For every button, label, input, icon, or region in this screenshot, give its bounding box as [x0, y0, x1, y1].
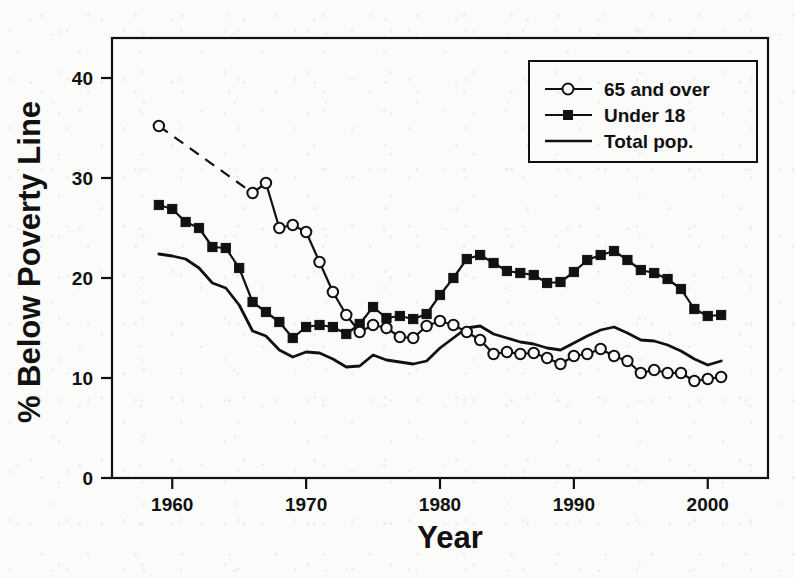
data-point-65-and-over: [488, 349, 498, 359]
data-point-65-and-over: [261, 178, 271, 188]
legend-label-under-18: Under 18: [604, 105, 685, 126]
data-point-65-and-over: [448, 320, 458, 330]
x-tick-label: 1960: [151, 494, 193, 515]
data-point-65-and-over: [582, 349, 592, 359]
data-point-65-and-over: [341, 310, 351, 320]
data-point-under-18: [650, 268, 659, 277]
data-point-under-18: [181, 217, 190, 226]
data-point-65-and-over: [328, 287, 338, 297]
data-point-under-18: [476, 250, 485, 259]
data-point-under-18: [556, 277, 565, 286]
open-circle-icon: [563, 84, 574, 95]
data-point-65-and-over: [435, 316, 445, 326]
data-point-65-and-over: [274, 223, 284, 233]
data-point-under-18: [368, 302, 377, 311]
data-point-under-18: [288, 333, 297, 342]
data-point-65-and-over: [716, 372, 726, 382]
data-point-65-and-over: [703, 374, 713, 384]
data-point-65-and-over: [301, 227, 311, 237]
y-tick-label: 20: [72, 268, 93, 289]
y-tick-label: 30: [72, 168, 93, 189]
data-point-under-18: [516, 268, 525, 277]
y-axis-title: % Below Poverty Line: [12, 101, 47, 423]
y-tick-label: 40: [72, 68, 93, 89]
data-point-under-18: [221, 243, 230, 252]
data-point-65-and-over: [354, 327, 364, 337]
data-point-under-18: [208, 242, 217, 251]
legend-label-65-and-over: 65 and over: [604, 79, 710, 100]
data-point-65-and-over: [381, 323, 391, 333]
data-point-under-18: [409, 314, 418, 323]
data-point-under-18: [596, 250, 605, 259]
x-tick-label: 1980: [419, 494, 461, 515]
data-point-under-18: [422, 309, 431, 318]
data-point-under-18: [676, 284, 685, 293]
data-point-65-and-over: [408, 333, 418, 343]
x-tick-label: 1990: [553, 494, 595, 515]
data-point-under-18: [395, 311, 404, 320]
data-point-65-and-over: [662, 368, 672, 378]
data-point-under-18: [543, 278, 552, 287]
data-point-65-and-over: [421, 321, 431, 331]
data-point-65-and-over: [555, 359, 565, 369]
data-point-under-18: [328, 322, 337, 331]
data-point-65-and-over: [462, 327, 472, 337]
data-point-under-18: [663, 274, 672, 283]
data-point-under-18: [502, 266, 511, 275]
data-point-under-18: [636, 265, 645, 274]
data-point-under-18: [569, 267, 578, 276]
y-tick-label: 10: [72, 368, 93, 389]
data-point-under-18: [275, 317, 284, 326]
data-point-under-18: [529, 270, 538, 279]
chart-legend: 65 and over Under 18 Total pop.: [529, 61, 757, 162]
data-point-under-18: [261, 307, 270, 316]
data-point-under-18: [489, 258, 498, 267]
data-point-65-and-over: [515, 349, 525, 359]
data-point-under-18: [609, 246, 618, 255]
filled-square-icon: [563, 110, 573, 120]
data-point-under-18: [382, 313, 391, 322]
data-point-65-and-over: [649, 365, 659, 375]
data-point-65-and-over: [475, 335, 485, 345]
data-point-65-and-over: [542, 353, 552, 363]
x-tick-label: 1970: [285, 494, 327, 515]
x-tick-label: 2000: [687, 494, 729, 515]
data-point-65-and-over: [368, 320, 378, 330]
data-point-under-18: [690, 304, 699, 313]
data-point-under-18: [302, 322, 311, 331]
data-point-under-18: [435, 290, 444, 299]
data-point-under-18: [315, 320, 324, 329]
data-point-under-18: [168, 204, 177, 213]
legend-label-total-pop: Total pop.: [604, 131, 693, 152]
data-point-65-and-over: [569, 351, 579, 361]
y-tick-label: 0: [82, 468, 93, 489]
data-point-65-and-over: [636, 368, 646, 378]
data-point-65-and-over: [676, 368, 686, 378]
data-point-under-18: [623, 255, 632, 264]
data-point-under-18: [154, 200, 163, 209]
data-point-65-and-over: [154, 121, 164, 131]
data-point-65-and-over: [595, 344, 605, 354]
data-point-under-18: [194, 223, 203, 232]
data-point-under-18: [462, 254, 471, 263]
data-point-65-and-over: [529, 348, 539, 358]
data-point-under-18: [583, 255, 592, 264]
data-point-65-and-over: [314, 257, 324, 267]
data-point-65-and-over: [502, 347, 512, 357]
data-point-65-and-over: [609, 351, 619, 361]
data-point-65-and-over: [689, 376, 699, 386]
data-point-65-and-over: [622, 356, 632, 366]
data-point-65-and-over: [395, 332, 405, 342]
x-axis-title: Year: [417, 520, 483, 555]
data-point-under-18: [342, 329, 351, 338]
poverty-rate-chart-figure: 010203040 19601970198019902000 Year % Be…: [0, 0, 795, 578]
chart-canvas: 010203040 19601970198019902000 Year % Be…: [0, 0, 795, 578]
data-point-under-18: [449, 273, 458, 282]
data-point-under-18: [248, 297, 257, 306]
data-point-65-and-over: [247, 188, 257, 198]
data-point-65-and-over: [288, 220, 298, 230]
data-point-under-18: [703, 311, 712, 320]
data-point-under-18: [717, 310, 726, 319]
data-point-under-18: [235, 263, 244, 272]
